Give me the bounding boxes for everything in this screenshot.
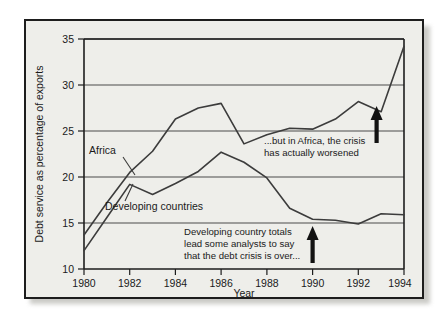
y-tick-label-30: 30 (62, 79, 74, 91)
africa-annotation-line-1: ...but in Africa, the crisis (264, 135, 366, 146)
y-tick-label-10: 10 (62, 263, 74, 275)
x-tick-label-1982: 1982 (118, 277, 142, 289)
developing-annotation-line-2: lead some analysts to say (184, 238, 295, 249)
y-tick-marks (78, 39, 84, 269)
series-label-africa-group: Africa (89, 144, 135, 175)
africa-annotation: ...but in Africa, the crisis has actuall… (264, 106, 383, 158)
x-tick-label-1992: 1992 (347, 277, 371, 289)
y-tick-label-15: 15 (62, 217, 74, 229)
y-tick-label-35: 35 (62, 33, 74, 45)
y-axis-title: Debt service as percentage of exports (33, 66, 45, 243)
x-tick-label-1994: 1994 (388, 277, 412, 289)
line-chart-plot: 35 30 25 20 15 10 1980 1982 (26, 21, 422, 297)
africa-annotation-line-2: has actually worsened (264, 147, 359, 158)
x-tick-marks (84, 269, 404, 275)
x-axis-title: Year (233, 287, 255, 297)
x-tick-label-1986: 1986 (209, 277, 233, 289)
gridlines (84, 39, 404, 223)
y-tick-labels: 35 30 25 20 15 10 (62, 33, 74, 275)
x-tick-label-1990: 1990 (301, 277, 325, 289)
y-tick-label-20: 20 (62, 171, 74, 183)
series-label-africa: Africa (89, 144, 116, 156)
figure-root: 35 30 25 20 15 10 1980 1982 (0, 0, 448, 327)
y-tick-label-25: 25 (62, 125, 74, 137)
developing-annotation-line-1: Developing country totals (184, 226, 292, 237)
developing-annotation-line-3: that the debt crisis is over... (184, 250, 300, 261)
series-label-developing-countries: Developing countries (105, 200, 203, 212)
x-tick-label-1980: 1980 (72, 277, 96, 289)
developing-annotation: Developing country totals lead some anal… (184, 226, 319, 263)
x-tick-label-1988: 1988 (255, 277, 279, 289)
chart-panel: 35 30 25 20 15 10 1980 1982 (24, 19, 424, 299)
x-tick-label-1984: 1984 (164, 277, 188, 289)
developing-annotation-arrow-up-icon (307, 226, 319, 263)
